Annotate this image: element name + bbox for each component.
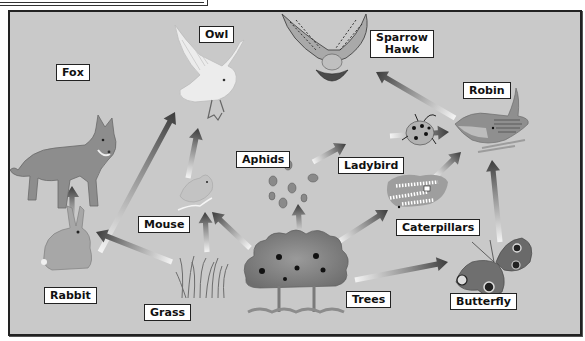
sparrow-hawk-illustration <box>282 14 367 81</box>
label-ladybird: Ladybird <box>338 157 404 174</box>
ladybird-illustration <box>402 114 436 145</box>
trees-illustration <box>244 230 348 312</box>
arrow-trees-to-caterpillars <box>334 204 392 248</box>
label-aphids: Aphids <box>236 151 290 168</box>
label-owl: Owl <box>199 26 234 43</box>
label-trees: Trees <box>346 291 391 308</box>
label-fox: Fox <box>56 64 90 81</box>
label-rabbit: Rabbit <box>44 287 97 304</box>
label-caterpillars: Caterpillars <box>396 219 480 236</box>
caterpillars-illustration <box>387 175 448 208</box>
label-sparrow-hawk: Sparrow Hawk <box>370 30 434 58</box>
arrow-mouse-to-owl <box>181 127 205 180</box>
fox-illustration <box>10 115 116 208</box>
label-grass: Grass <box>144 304 191 321</box>
rabbit-illustration <box>41 206 92 270</box>
label-robin: Robin <box>463 82 511 99</box>
butterfly-illustration <box>456 238 532 296</box>
arrow-trees-to-butterfly <box>354 255 450 287</box>
mouse-illustration <box>178 175 213 210</box>
arrow-trees-to-mouse <box>207 207 255 253</box>
arrow-grass-to-mouse <box>198 212 214 253</box>
label-mouse: Mouse <box>138 216 190 233</box>
arrow-butterfly-to-robin <box>485 159 507 242</box>
label-butterfly: Butterfly <box>450 293 517 310</box>
grass-illustration <box>176 256 228 298</box>
